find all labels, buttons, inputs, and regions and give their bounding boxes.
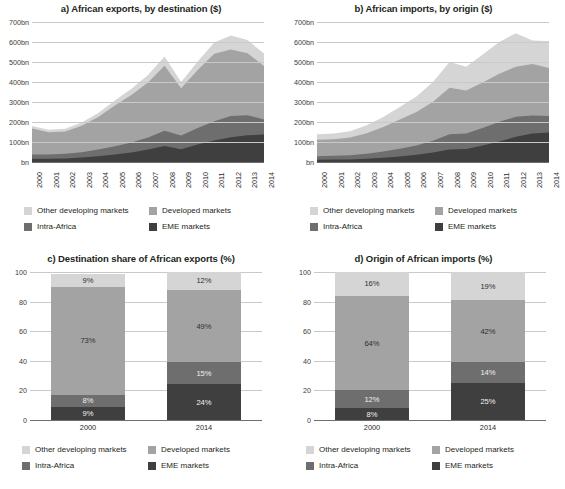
gridline	[32, 22, 264, 23]
legend-swatch-developed-icon	[432, 446, 440, 454]
x-axis-tick-label: 2005	[403, 172, 412, 188]
legend-item-other_developing[interactable]: Other developing markets	[310, 206, 435, 215]
panel-b-plot: bn100bn200bn300bn400bn500bn600bn700bn200…	[317, 22, 549, 162]
legend-item-developed[interactable]: Developed markets	[432, 445, 558, 454]
x-axis-tick-labels: 2000200120022003200420052006200720082009…	[317, 162, 549, 192]
legend-item-intra_africa[interactable]: Intra-Africa	[310, 222, 435, 231]
x-axis-tick-label: 2011	[502, 173, 511, 188]
legend-item-eme[interactable]: EME markets	[148, 461, 274, 470]
gridline	[317, 102, 549, 103]
bar-segment-developed[interactable]: 42%	[451, 300, 525, 362]
gridline	[30, 420, 262, 421]
legend-swatch-eme-icon	[432, 462, 440, 470]
y-axis-tick-label: 20	[19, 386, 30, 395]
legend-item-eme[interactable]: EME markets	[435, 222, 560, 231]
legend-swatch-intra_africa-icon	[306, 462, 314, 470]
legend-item-intra_africa[interactable]: Intra-Africa	[24, 222, 149, 231]
stacked-bar-2014[interactable]: 24%15%49%12%	[167, 272, 241, 420]
y-axis-tick-label: 500bn	[294, 58, 317, 67]
gridline	[317, 42, 549, 43]
legend-label: Developed markets	[162, 206, 231, 215]
legend-item-eme[interactable]: EME markets	[149, 222, 274, 231]
bar-segment-value-label: 19%	[480, 282, 495, 291]
x-axis-tick-labels: 2000200120022003200420052006200720082009…	[32, 162, 264, 192]
stacked-bar-2000[interactable]: 9%8%73%9%	[51, 272, 125, 420]
panel-african-exports-area: a) African exports, by destination ($) b…	[0, 0, 282, 250]
bar-segment-eme[interactable]: 25%	[451, 383, 525, 420]
bar-segment-other_developing[interactable]: 12%	[167, 272, 241, 290]
stacked-bar-2014[interactable]: 25%14%42%19%	[451, 272, 525, 420]
bar-segment-value-label: 8%	[367, 410, 378, 419]
bar-segment-value-label: 42%	[480, 327, 495, 336]
y-axis-tick-label: 700bn	[294, 18, 317, 27]
y-axis-tick-label: 0	[307, 416, 314, 425]
y-axis-tick-label: 400bn	[294, 78, 317, 87]
legend-swatch-intra_africa-icon	[22, 462, 30, 470]
legend-item-developed[interactable]: Developed markets	[149, 206, 274, 215]
x-axis-tick-label: 2000	[320, 172, 329, 188]
x-axis-tick-label: 2007	[436, 172, 445, 188]
legend-item-other_developing[interactable]: Other developing markets	[22, 445, 148, 454]
bar-segment-eme[interactable]: 8%	[335, 408, 409, 420]
panel-a-title: a) African exports, by destination ($)	[0, 0, 282, 14]
legend-label: Intra-Africa	[319, 461, 358, 470]
bar-segment-other_developing[interactable]: 9%	[51, 274, 125, 287]
y-axis-tick-label: 40	[303, 356, 314, 365]
stacked-area-series-group	[317, 22, 549, 162]
bar-segment-value-label: 12%	[364, 395, 379, 404]
y-axis-tick-label: 60	[19, 327, 30, 336]
y-axis-tick-label: 80	[303, 297, 314, 306]
legend-item-intra_africa[interactable]: Intra-Africa	[306, 461, 432, 470]
legend-swatch-intra_africa-icon	[24, 223, 32, 231]
bar-segment-eme[interactable]: 9%	[51, 407, 125, 420]
gridline	[32, 102, 264, 103]
gridline	[317, 62, 549, 63]
bar-segment-developed[interactable]: 73%	[51, 287, 125, 395]
legend-item-other_developing[interactable]: Other developing markets	[24, 206, 149, 215]
figure-grid: a) African exports, by destination ($) b…	[0, 0, 565, 489]
gridline	[32, 122, 264, 123]
bar-segment-other_developing[interactable]: 19%	[451, 272, 525, 300]
bar-segment-value-label: 49%	[196, 322, 211, 331]
legend-item-developed[interactable]: Developed markets	[148, 445, 274, 454]
x-axis-tick-label: 2001	[337, 172, 346, 188]
x-axis-tick-label: 2002	[353, 172, 362, 188]
legend-label: EME markets	[162, 222, 210, 231]
legend-item-intra_africa[interactable]: Intra-Africa	[22, 461, 148, 470]
bar-segment-intra_africa[interactable]: 8%	[51, 395, 125, 407]
y-axis-tick-label: 400bn	[9, 78, 32, 87]
panel-african-imports-area: b) African imports, by origin ($) bn100b…	[282, 0, 565, 250]
bar-segment-intra_africa[interactable]: 12%	[335, 390, 409, 408]
x-axis-tick-label: 2004	[101, 172, 110, 188]
bar-segment-developed[interactable]: 49%	[167, 290, 241, 363]
legend-item-eme[interactable]: EME markets	[432, 461, 558, 470]
x-axis-tick-label: 2002	[68, 172, 77, 188]
legend-item-other_developing[interactable]: Other developing markets	[306, 445, 432, 454]
bar-segment-other_developing[interactable]: 16%	[335, 272, 409, 296]
bar-segment-value-label: 16%	[364, 279, 379, 288]
bar-segment-intra_africa[interactable]: 14%	[451, 362, 525, 383]
y-axis-tick-label: 100	[15, 268, 30, 277]
legend-swatch-intra_africa-icon	[310, 223, 318, 231]
x-axis-tick-label: 2008	[453, 172, 462, 188]
y-axis-tick-label: 100bn	[294, 138, 317, 147]
y-axis-tick-label: 100	[299, 268, 314, 277]
bar-segment-eme[interactable]: 24%	[167, 384, 241, 420]
bar-segment-value-label: 64%	[364, 339, 379, 348]
x-axis-tick-label: 2010	[201, 172, 210, 188]
y-axis-tick-label: 100bn	[9, 138, 32, 147]
panel-a-legend: Other developing marketsDeveloped market…	[24, 206, 274, 231]
y-axis-tick-label: bn	[21, 158, 32, 167]
bar-segment-value-label: 8%	[83, 396, 94, 405]
bar-segment-developed[interactable]: 64%	[335, 296, 409, 391]
legend-label: EME markets	[161, 461, 209, 470]
panel-d-plot: 0204060801008%12%64%16%200025%14%42%19%2…	[314, 272, 546, 420]
panel-c-legend: Other developing marketsDeveloped market…	[22, 445, 274, 470]
legend-item-developed[interactable]: Developed markets	[435, 206, 560, 215]
stacked-bar-2000[interactable]: 8%12%64%16%	[335, 272, 409, 420]
gridline	[32, 82, 264, 83]
x-axis-tick-label: 2009	[184, 172, 193, 188]
y-axis-tick-label: 200bn	[9, 118, 32, 127]
bar-segment-intra_africa[interactable]: 15%	[167, 362, 241, 384]
panel-b-legend: Other developing marketsDeveloped market…	[310, 206, 560, 231]
